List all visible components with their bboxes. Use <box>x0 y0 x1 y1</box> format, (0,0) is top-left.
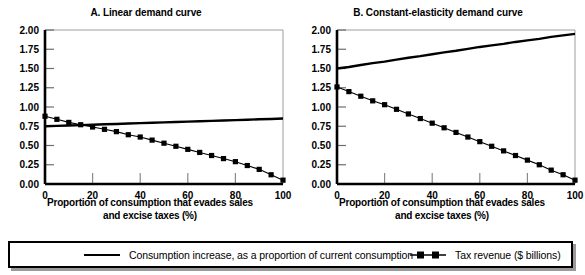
panel-b-data-marker <box>489 144 494 149</box>
panel-a-data-marker <box>54 117 59 122</box>
panel-b-data-marker <box>465 134 470 139</box>
panel-b-ytick-label: 1.25 <box>312 82 332 93</box>
panel-a-data-marker <box>126 132 131 137</box>
panel-b-data-marker <box>501 148 506 153</box>
panel-a-ytick-label: 1.25 <box>20 82 40 93</box>
panel-b-data-marker <box>394 107 399 112</box>
panel-a-xaxis-label: Proportion of consumption that evades sa… <box>10 196 290 222</box>
panel-a-data-marker <box>245 163 250 168</box>
chart-panel-b: B. Constant-elasticity demand curve 0.00… <box>292 0 584 232</box>
legend-label-consumption: Consumption increase, as a proportion of… <box>129 249 413 261</box>
panel-b-data-marker <box>358 94 363 99</box>
panel-b-ytick-label: 2.00 <box>312 25 332 36</box>
panel-a-data-marker <box>233 159 238 164</box>
panel-a-ytick-label: 0.50 <box>20 140 40 151</box>
panels-row: A. Linear demand curve 0.000.250.500.751… <box>0 0 585 232</box>
panel-a-data-marker <box>78 122 83 127</box>
panel-a-ytick-label: 0.25 <box>20 159 40 170</box>
panel-b-data-marker <box>525 158 530 163</box>
panel-a-data-marker <box>197 150 202 155</box>
panel-a-ytick-label: 1.00 <box>20 102 40 113</box>
panel-a-ytick-label: 0.00 <box>20 179 40 190</box>
panel-b-ytick-label: 0.25 <box>312 159 332 170</box>
panel-a-data-marker <box>161 141 166 146</box>
legend-item-tax-revenue: Tax revenue ($ billions) <box>408 247 561 263</box>
legend: Consumption increase, as a proportion of… <box>8 241 573 268</box>
panel-a-data-marker <box>173 144 178 149</box>
panel-a-data-marker <box>280 178 285 183</box>
panel-b-data-marker <box>561 172 566 177</box>
panel-a-data-marker <box>269 172 274 177</box>
panel-b-data-marker <box>549 168 554 173</box>
panel-b-ytick-label: 1.50 <box>312 63 332 74</box>
panel-b-plot-frame <box>337 30 575 184</box>
figure-container: A. Linear demand curve 0.000.250.500.751… <box>0 0 585 275</box>
panel-a-xaxis-label-line2: and excise taxes (%) <box>103 210 197 221</box>
panel-a-data-marker <box>150 138 155 143</box>
panel-a-ytick-label: 1.75 <box>20 44 40 55</box>
panel-b-ytick-label: 0.75 <box>312 121 332 132</box>
panel-b-data-marker <box>346 89 351 94</box>
panel-b-data-marker <box>334 84 339 89</box>
panel-b-ytick-label: 1.00 <box>312 102 332 113</box>
panel-a-xaxis-label-line1: Proportion of consumption that evades sa… <box>47 197 253 208</box>
panel-a-data-marker <box>102 127 107 132</box>
panel-a-data-marker <box>114 129 119 134</box>
panel-a-plot-frame <box>45 30 283 184</box>
panel-b-ytick-label: 1.75 <box>312 44 332 55</box>
panel-b-data-marker <box>442 125 447 130</box>
panel-b-data-marker <box>572 178 577 183</box>
panel-b-data-marker <box>406 111 411 116</box>
panel-b-data-marker <box>453 130 458 135</box>
panel-b-data-marker <box>537 162 542 167</box>
panel-b-ytick-label: 0.50 <box>312 140 332 151</box>
panel-b-ytick-label: 0.00 <box>312 179 332 190</box>
panel-b-data-marker <box>370 98 375 103</box>
panel-b-xaxis-label-line2: and excise taxes (%) <box>395 210 489 221</box>
panel-a-data-marker <box>42 114 47 119</box>
panel-b-series-line-0 <box>337 34 575 69</box>
panel-b-data-marker <box>430 121 435 126</box>
legend-label-tax-revenue: Tax revenue ($ billions) <box>455 249 561 261</box>
legend-swatch-square-line-icon <box>408 249 448 261</box>
panel-a-data-marker <box>90 124 95 129</box>
panel-a-ytick-label: 2.00 <box>20 25 40 36</box>
panel-a-data-marker <box>185 147 190 152</box>
panel-b-data-marker <box>477 139 482 144</box>
panel-b-data-marker <box>418 116 423 121</box>
panel-a-ytick-label: 1.50 <box>20 63 40 74</box>
panel-b-xaxis-label-line1: Proportion of consumption that evades sa… <box>339 197 545 208</box>
panel-a-ytick-label: 0.75 <box>20 121 40 132</box>
panel-b-data-marker <box>382 102 387 107</box>
panel-a-data-marker <box>257 167 262 172</box>
panel-b-xaxis-label: Proportion of consumption that evades sa… <box>302 196 582 222</box>
legend-item-consumption: Consumption increase, as a proportion of… <box>82 247 413 263</box>
panel-a-data-marker <box>66 120 71 125</box>
chart-panel-a: A. Linear demand curve 0.000.250.500.751… <box>0 0 292 232</box>
panel-a-data-marker <box>221 156 226 161</box>
panel-a-data-marker <box>138 134 143 139</box>
panel-a-data-marker <box>209 153 214 158</box>
legend-swatch-line-icon <box>82 249 122 261</box>
panel-b-data-marker <box>513 153 518 158</box>
